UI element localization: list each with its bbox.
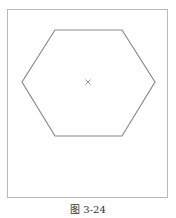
figure-caption: 图 3-24 — [0, 201, 176, 216]
figure-canvas — [0, 0, 176, 218]
center-x-icon — [86, 80, 91, 85]
drawing-frame — [8, 10, 168, 198]
